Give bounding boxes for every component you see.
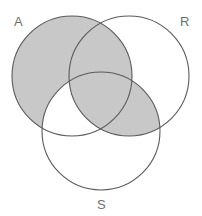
- set-label-s: S: [97, 197, 106, 212]
- venn-diagram-figure: A R S: [0, 0, 202, 216]
- venn-diagram-svg: A R S: [0, 0, 202, 216]
- set-label-a: A: [14, 14, 23, 29]
- set-label-r: R: [180, 14, 190, 29]
